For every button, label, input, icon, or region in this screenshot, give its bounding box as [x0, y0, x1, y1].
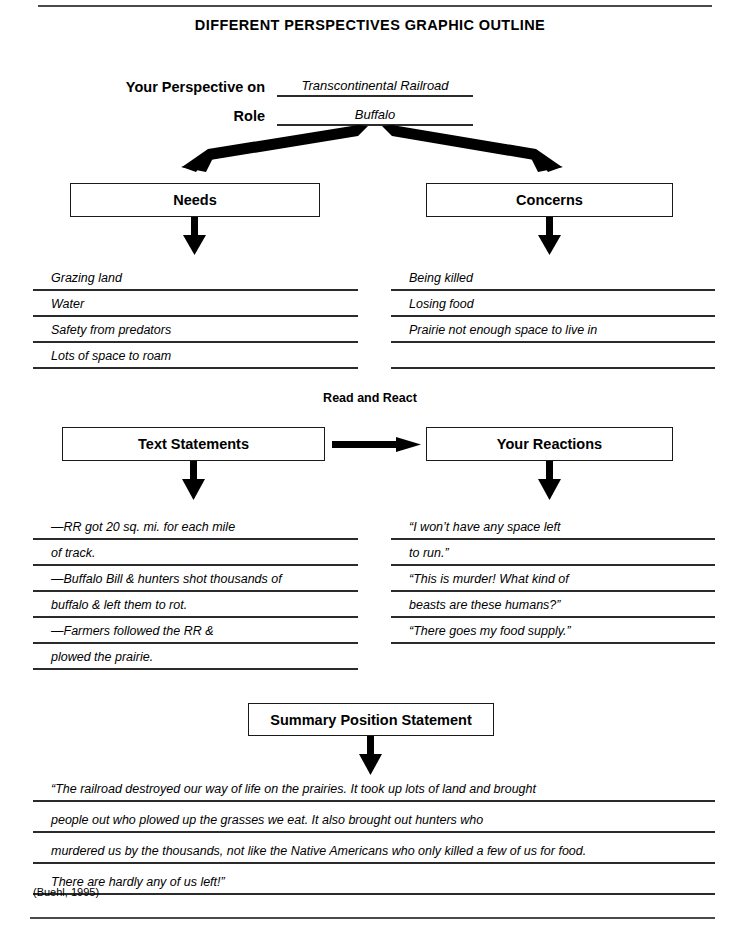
text-statement-line-1-text: —RR got 20 sq. mi. for each mile [51, 520, 235, 534]
summary-heading: Summary Position Statement [270, 712, 471, 728]
summary-line-3[interactable]: murdered us by the thousands, not like t… [33, 836, 715, 864]
text-statement-line-6[interactable]: plowed the prairie. [33, 642, 358, 670]
needs-line-4-text: Lots of space to roam [51, 349, 171, 363]
role-input[interactable]: Buffalo [277, 107, 473, 126]
concerns-line-1[interactable]: Being killed [391, 263, 715, 291]
text-statement-line-2-text: of track. [51, 546, 95, 560]
needs-line-2[interactable]: Water [33, 289, 358, 317]
bottom-divider-rule [30, 917, 715, 919]
text-statement-line-3-text: —Buffalo Bill & hunters shot thousands o… [51, 572, 282, 586]
reaction-line-2[interactable]: to run.” [391, 538, 715, 566]
needs-line-2-text: Water [51, 297, 84, 311]
concerns-line-2-text: Losing food [409, 297, 474, 311]
text-statement-line-6-text: plowed the prairie. [51, 650, 153, 664]
top-divider-rule [38, 5, 712, 7]
reaction-line-4-text: beasts are these humans?” [409, 598, 560, 612]
reaction-line-1[interactable]: “I won’t have any space left [391, 512, 715, 540]
arrow-text-statements-down [182, 461, 205, 500]
reaction-line-5-text: “There goes my food supply.” [409, 624, 571, 638]
concerns-line-3-text: Prairie not enough space to live in [409, 323, 597, 337]
needs-line-4[interactable]: Lots of space to roam [33, 341, 358, 369]
text-statement-line-5[interactable]: —Farmers followed the RR & [33, 616, 358, 644]
role-label: Role [60, 108, 265, 124]
concerns-box: Concerns [426, 183, 673, 217]
text-statement-line-1[interactable]: —RR got 20 sq. mi. for each mile [33, 512, 358, 540]
text-statement-line-5-text: —Farmers followed the RR & [51, 624, 214, 638]
text-statements-box: Text Statements [62, 427, 325, 461]
source-attribution: (Buehl, 1995) [33, 886, 99, 898]
reaction-line-3-text: “This is murder! What kind of [409, 572, 569, 586]
summary-line-2-text: people out who plowed up the grasses we … [51, 813, 483, 827]
summary-line-1-text: “The railroad destroyed our way of life … [51, 782, 536, 796]
summary-line-3-text: murdered us by the thousands, not like t… [51, 844, 586, 858]
worksheet-page: DIFFERENT PERSPECTIVES GRAPHIC OUTLINE Y… [0, 0, 740, 941]
needs-line-3-text: Safety from predators [51, 323, 171, 337]
text-statement-line-4-text: buffalo & left them to rot. [51, 598, 187, 612]
needs-heading: Needs [173, 192, 217, 208]
read-and-react-label: Read and React [0, 391, 740, 405]
your-reactions-box: Your Reactions [426, 427, 673, 461]
concerns-line-4[interactable] [391, 341, 715, 369]
your-reactions-heading: Your Reactions [497, 436, 602, 452]
arrow-your-reactions-down [538, 461, 561, 500]
concerns-line-3[interactable]: Prairie not enough space to live in [391, 315, 715, 343]
arrow-text-to-reactions [332, 437, 421, 452]
summary-position-statement-box: Summary Position Statement [248, 703, 494, 736]
concerns-heading: Concerns [516, 192, 583, 208]
summary-line-1[interactable]: “The railroad destroyed our way of life … [33, 774, 715, 802]
arrow-role-to-needs [181, 125, 368, 172]
reaction-line-5[interactable]: “There goes my food supply.” [391, 616, 715, 644]
text-statement-line-3[interactable]: —Buffalo Bill & hunters shot thousands o… [33, 564, 358, 592]
needs-line-3[interactable]: Safety from predators [33, 315, 358, 343]
arrow-role-to-concerns [382, 125, 563, 172]
needs-line-1-text: Grazing land [51, 271, 122, 285]
concerns-line-1-text: Being killed [409, 271, 473, 285]
page-title: DIFFERENT PERSPECTIVES GRAPHIC OUTLINE [0, 17, 740, 33]
summary-line-2[interactable]: people out who plowed up the grasses we … [33, 805, 715, 833]
concerns-line-2[interactable]: Losing food [391, 289, 715, 317]
reaction-line-4[interactable]: beasts are these humans?” [391, 590, 715, 618]
perspective-label: Your Perspective on [60, 79, 265, 95]
text-statements-heading: Text Statements [138, 436, 249, 452]
arrow-concerns-down [538, 217, 561, 255]
reaction-line-1-text: “I won’t have any space left [409, 520, 560, 534]
text-statement-line-4[interactable]: buffalo & left them to rot. [33, 590, 358, 618]
reaction-line-2-text: to run.” [409, 546, 449, 560]
arrow-summary-down [359, 736, 382, 775]
reaction-line-3[interactable]: “This is murder! What kind of [391, 564, 715, 592]
arrow-needs-down [183, 217, 206, 255]
summary-line-4[interactable]: There are hardly any of us left!” [33, 867, 715, 895]
text-statement-line-2[interactable]: of track. [33, 538, 358, 566]
needs-line-1[interactable]: Grazing land [33, 263, 358, 291]
perspective-input[interactable]: Transcontinental Railroad [277, 78, 473, 97]
needs-box: Needs [70, 183, 320, 217]
